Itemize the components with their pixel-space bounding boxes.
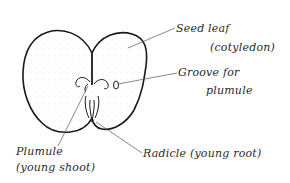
label-young-shoot: (young shoot) (16, 161, 95, 174)
seed-diagram: Seed leaf (cotyledon) Groove for plumule… (0, 0, 290, 183)
label-plumule: Plumule (16, 145, 63, 158)
left-cotyledon-shape (23, 31, 92, 133)
label-seed-leaf: Seed leaf (176, 22, 230, 35)
right-cotyledon-shape (92, 33, 147, 130)
label-radicle: Radicle (young root) (143, 147, 261, 160)
label-groove-plumule: plumule (206, 84, 253, 97)
label-cotyledon: (cotyledon) (210, 41, 275, 54)
leader-radicle (96, 122, 142, 153)
label-groove-for: Groove for (178, 66, 239, 79)
